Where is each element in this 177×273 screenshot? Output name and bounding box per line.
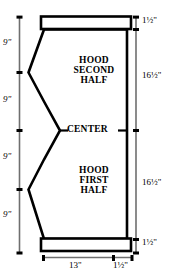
part-label-hood-first-half: HOOD FIRST HALF bbox=[61, 166, 127, 196]
bottom-seam-bar bbox=[41, 239, 131, 252]
dimension-rules bbox=[20, 17, 137, 258]
dimension-label-left-4: 9" bbox=[3, 210, 11, 219]
tick-left-1 bbox=[17, 71, 23, 74]
part-label-line-3: HALF bbox=[61, 76, 127, 86]
tick-left-bottom bbox=[17, 252, 23, 255]
center-label: CENTER bbox=[67, 125, 108, 135]
tick-left-center bbox=[17, 129, 23, 132]
dimension-label-left-3: 9" bbox=[3, 152, 11, 161]
dimension-label-right-first-half: 16½" bbox=[142, 178, 161, 187]
dimension-label-left-2: 9" bbox=[3, 95, 11, 104]
dimension-label-bottom-seam: 1½" bbox=[113, 261, 128, 270]
part-label-hood-second-half: HOOD SECOND HALF bbox=[61, 56, 127, 86]
tick-bottom-right bbox=[131, 255, 134, 261]
dimension-label-right-top-seam: 1½" bbox=[142, 16, 157, 25]
part-label-line-3: HALF bbox=[61, 186, 127, 196]
drawing-canvas bbox=[0, 0, 177, 273]
tick-right-center bbox=[133, 129, 139, 132]
technical-drawing: 9" 9" 9" 9" 1½" 16½" 16½" 1½" 13" 1½" HO… bbox=[0, 0, 177, 273]
tick-right-bottom bbox=[133, 252, 139, 255]
tick-right-top bbox=[133, 16, 139, 19]
dimension-label-left-1: 9" bbox=[3, 38, 11, 47]
tick-left-2 bbox=[17, 188, 23, 191]
tick-bottom-left bbox=[42, 255, 45, 261]
dimension-label-right-bottom-seam: 1½" bbox=[142, 238, 157, 247]
dimension-label-bottom-width: 13" bbox=[69, 261, 82, 270]
top-seam-bar bbox=[41, 17, 131, 30]
tick-right-seam-top bbox=[133, 28, 139, 31]
dimension-label-right-second-half: 16½" bbox=[142, 71, 161, 80]
tick-right-seam-bottom bbox=[133, 238, 139, 241]
tick-left-top bbox=[17, 16, 23, 19]
